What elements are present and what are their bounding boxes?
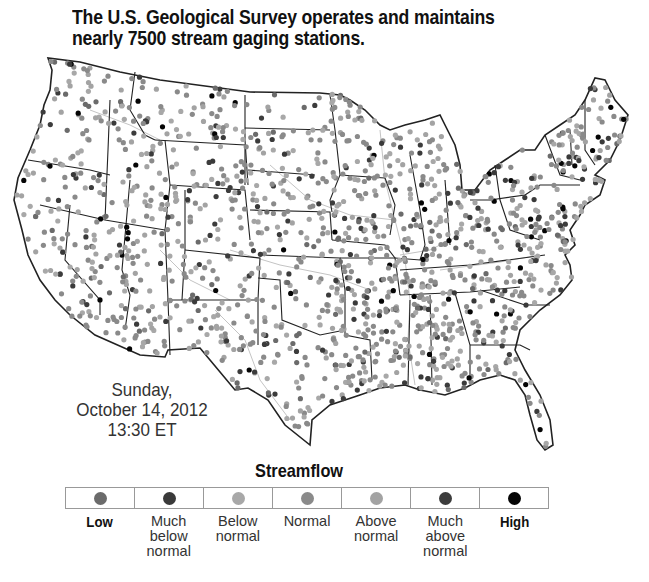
high-dot-icon bbox=[508, 492, 521, 505]
timestamp: Sunday, October 14, 2012 13:30 ET bbox=[68, 380, 215, 440]
legend-label-below-normal: Below normal bbox=[203, 514, 272, 559]
legend-cell-much-below-normal bbox=[135, 488, 204, 508]
much-below-normal-dot-icon bbox=[163, 492, 176, 505]
legend-cell-above-normal bbox=[342, 488, 411, 508]
legend-label-much-above-normal: Much above normal bbox=[411, 514, 480, 559]
timestamp-date: October 14, 2012 bbox=[68, 400, 215, 420]
legend-title: Streamflow bbox=[255, 460, 343, 482]
legend-cell-much-above-normal bbox=[411, 488, 480, 508]
timestamp-time: 13:30 ET bbox=[68, 420, 215, 440]
headline-line-1: The U.S. Geological Survey operates and … bbox=[72, 6, 519, 27]
legend-label-much-below-normal: Much below normal bbox=[134, 514, 203, 559]
normal-dot-icon bbox=[301, 492, 314, 505]
legend-label-normal: Normal bbox=[272, 514, 341, 559]
legend-cell-low bbox=[66, 488, 135, 508]
legend-label-low: Low bbox=[69, 514, 130, 559]
legend-swatches bbox=[65, 487, 549, 509]
below-normal-dot-icon bbox=[232, 492, 245, 505]
low-dot-icon bbox=[94, 492, 107, 505]
timestamp-day: Sunday, bbox=[68, 380, 215, 400]
much-above-normal-dot-icon bbox=[439, 492, 452, 505]
legend-label-above-normal: Above normal bbox=[342, 514, 411, 559]
above-normal-dot-icon bbox=[370, 492, 383, 505]
legend-cell-normal bbox=[273, 488, 342, 508]
legend-label-high: High bbox=[484, 514, 545, 559]
legend-labels: Low Much below normal Below normal Norma… bbox=[65, 514, 549, 559]
legend-cell-below-normal bbox=[204, 488, 273, 508]
legend-cell-high bbox=[480, 488, 548, 508]
